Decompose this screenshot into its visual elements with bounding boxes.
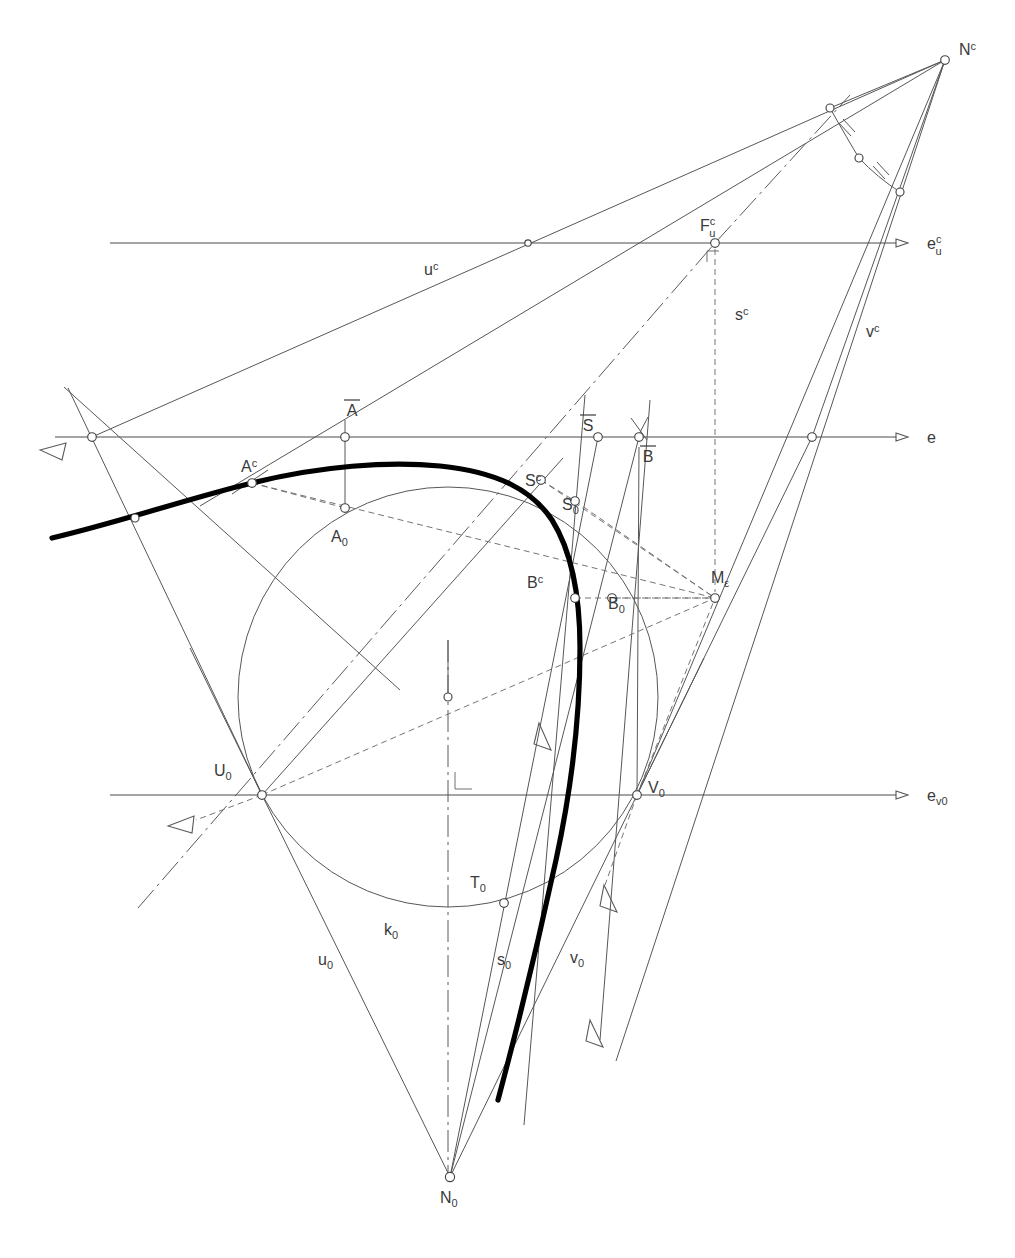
line-from-Eleft-down: [68, 388, 262, 795]
geometry-drawing: Nc ecu Fcu uc sc vc e A S B Ac Sc S0 A0 …: [0, 0, 1015, 1258]
label-Nc: Nc: [959, 40, 977, 58]
label-N0: N0: [440, 1189, 458, 1209]
node-Nc: [941, 56, 950, 65]
label-Sc: Sc: [525, 471, 542, 489]
node-U0: [258, 791, 267, 800]
node-Abar: [341, 433, 350, 442]
arrow-lower-left-icon: [168, 816, 194, 833]
node-Eright: [808, 433, 817, 442]
node-T0: [500, 899, 509, 908]
label-e: e: [927, 429, 936, 446]
ray-Nc-to-Eright: [616, 60, 945, 1061]
figure-canvas: Nc ecu Fcu uc sc vc e A S B Ac Sc S0 A0 …: [0, 0, 1015, 1258]
label-S-bar: S: [583, 417, 594, 434]
ordinate-Bbar-V0: [637, 447, 639, 795]
node-arc-mid: [855, 154, 863, 162]
label-v0: v0: [570, 949, 584, 969]
label-v-c: vc: [866, 322, 880, 340]
angle-tick-2b: [877, 162, 889, 175]
node-Bbar: [635, 433, 644, 442]
label-A-bar-group: A: [344, 400, 360, 419]
dashed-S0-to-Meps: [575, 501, 715, 598]
label-u0: u0: [318, 951, 333, 971]
node-Bc: [571, 594, 580, 603]
line-N0-V0-Nc: [637, 437, 812, 795]
dashed-V0-short-down: [605, 795, 637, 885]
guide-U0-to-Sc: [262, 458, 563, 795]
label-e-u-c: ecu: [927, 233, 942, 257]
arrow-v0-mid-icon: [600, 885, 617, 912]
arrow-upper-left-icon: [40, 443, 66, 460]
label-V0: V0: [648, 779, 665, 799]
label-T0: T0: [470, 874, 486, 894]
right-angle-icon-axis: [455, 772, 472, 789]
line-N0-Bbar: [450, 437, 639, 1177]
line-u0: [262, 795, 450, 1177]
label-s0: s0: [497, 951, 511, 971]
label-u-c: uc: [424, 260, 439, 278]
node-curve-left: [131, 514, 139, 522]
right-angle-icon-Fuc: [707, 251, 719, 262]
dashed-Ac-to-A0: [252, 483, 345, 508]
node-Meps: [711, 594, 720, 603]
label-S-bar-group: S: [580, 415, 596, 434]
node-Ac: [248, 479, 257, 488]
node-Eleft: [88, 433, 97, 442]
label-M-epsilon: Mε: [711, 569, 729, 589]
node-Fuc: [711, 239, 720, 248]
label-Fuc: Fcu: [700, 215, 716, 239]
node-V0: [633, 791, 642, 800]
angle-bisector-arc: [830, 108, 900, 192]
angle-tick-1b: [843, 119, 855, 132]
dashed-U0-arrow-left: [196, 795, 262, 820]
dashed-Ac-to-Meps: [252, 483, 715, 598]
label-U0: U0: [214, 762, 232, 782]
line-s0: [450, 437, 598, 1177]
node-ecu-mid: [525, 240, 531, 246]
node-arc-top: [826, 104, 834, 112]
line-through-Bbar-slant: [600, 400, 650, 1040]
node-N0: [445, 1172, 454, 1181]
guide-U0-to-Nc-dashdot: [138, 243, 715, 908]
label-Bc: Bc: [527, 573, 544, 591]
label-s-c: sc: [735, 305, 749, 323]
label-B-bar-group: B: [640, 446, 656, 465]
dashed-V0-to-Meps: [637, 598, 715, 795]
label-Ac: Ac: [241, 457, 258, 475]
label-k0: k0: [384, 921, 398, 941]
thick-conic-curve: [52, 464, 580, 1100]
node-arc-bot: [896, 188, 904, 196]
line-s-c-upper: [715, 95, 850, 243]
ray-Nc-to-Fuc-ext: [637, 60, 945, 795]
node-Sbar: [594, 433, 603, 442]
label-B-bar: B: [643, 448, 654, 465]
label-e-v0: ev0: [927, 787, 948, 807]
ray-Nc-to-left-e: [92, 60, 945, 437]
ray-Nc-to-Ac: [200, 60, 945, 506]
line-u-c: [64, 387, 400, 690]
node-A0: [341, 504, 350, 513]
line-v-c: [812, 60, 945, 437]
label-A0: A0: [331, 528, 348, 548]
label-A-bar: A: [347, 402, 358, 419]
line-v0-N0: [450, 795, 637, 1177]
node-circle-center: [444, 693, 452, 701]
